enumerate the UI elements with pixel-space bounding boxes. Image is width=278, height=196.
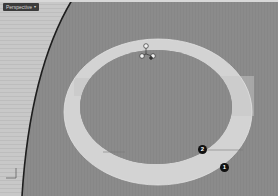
3d-viewport[interactable]: Perspective ▾ 2 1 (0, 0, 278, 196)
viewport-label-text: Perspective (6, 3, 32, 11)
callout-marker-2: 2 (198, 145, 207, 154)
chevron-down-icon: ▾ (34, 3, 36, 11)
viewport-label-dropdown[interactable]: Perspective ▾ (3, 3, 39, 11)
viewport-scene (0, 0, 278, 196)
callout-marker-1: 1 (220, 163, 229, 172)
viewport-top-border (0, 0, 278, 2)
